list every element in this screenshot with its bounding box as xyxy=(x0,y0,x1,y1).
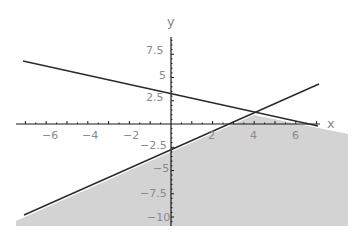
x-tick-label: 2 xyxy=(208,129,215,142)
x-tick-label: −4 xyxy=(82,129,98,142)
y-tick-label: −5 xyxy=(153,162,169,175)
x-tick-label: 6 xyxy=(292,129,299,142)
x-tick-label: 4 xyxy=(250,129,257,142)
x-axis-label: x xyxy=(327,116,335,131)
x-tick-label: −2 xyxy=(123,129,139,142)
y-tick-label: 7.5 xyxy=(146,44,164,57)
y-tick-label: 5 xyxy=(159,69,166,82)
y-tick-label: −7.5 xyxy=(140,187,167,200)
x-tick-label: −6 xyxy=(42,129,58,142)
y-axis-label: y xyxy=(167,14,175,29)
y-tick-label: 2.5 xyxy=(146,91,164,104)
chart-plot: x y −6 −4 −2 2 4 6 7.5 5 2.5 −2.5 −5 −7.… xyxy=(0,0,364,234)
y-tick-label: −2.5 xyxy=(140,139,167,152)
y-tick-label: −10 xyxy=(147,211,170,224)
